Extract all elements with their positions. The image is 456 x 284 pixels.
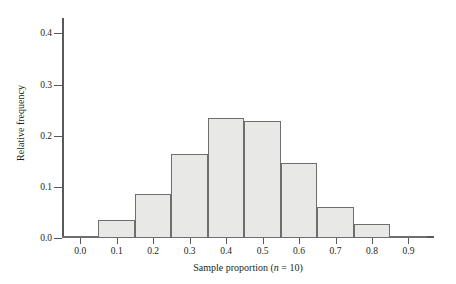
y-axis-title: Relative frequency — [15, 53, 27, 193]
x-axis-title-suffix: = 10) — [279, 262, 303, 273]
histogram-bar — [135, 194, 171, 239]
x-axis-tick-label: 0.8 — [352, 246, 392, 257]
y-axis-tick — [54, 85, 62, 86]
x-axis-tick — [226, 238, 227, 244]
histogram-bar — [390, 236, 426, 238]
x-axis-tick-label: 0.5 — [243, 246, 283, 257]
x-axis-tick — [263, 238, 264, 244]
x-axis-tick-label: 0.6 — [279, 246, 319, 257]
y-axis-tick-label: 0.0 — [18, 233, 52, 243]
histogram-bar — [244, 121, 280, 238]
x-axis-title: Sample proportion (n = 10) — [62, 262, 434, 274]
y-axis-tick — [54, 136, 62, 137]
x-axis-tick-label: 0.0 — [60, 246, 100, 257]
x-axis-tick-label: 0.1 — [97, 246, 137, 257]
plot-area — [62, 18, 434, 238]
histogram-figure: 0.00.10.20.30.4 0.00.10.20.30.40.50.60.7… — [0, 0, 456, 284]
x-axis-tick — [336, 238, 337, 244]
y-axis-tick-label: 0.4 — [18, 28, 52, 38]
histogram-bar — [171, 154, 207, 238]
x-axis-tick — [372, 238, 373, 244]
x-axis-tick-label: 0.9 — [388, 246, 428, 257]
y-axis-tick — [54, 238, 62, 239]
x-axis-tick-label: 0.4 — [206, 246, 246, 257]
x-axis-tick — [408, 238, 409, 244]
x-axis-tick — [190, 238, 191, 244]
x-axis-tick — [153, 238, 154, 244]
y-axis-tick — [54, 187, 62, 188]
histogram-bar — [317, 207, 353, 238]
y-axis-tick — [54, 33, 62, 34]
x-axis-title-prefix: Sample proportion ( — [193, 262, 274, 273]
histogram-bar — [354, 224, 390, 238]
histogram-bar — [62, 236, 98, 238]
histogram-bar — [281, 163, 317, 238]
x-axis-tick-label: 0.2 — [133, 246, 173, 257]
x-axis-tick — [299, 238, 300, 244]
x-axis-tick-label: 0.3 — [170, 246, 210, 257]
x-axis-tick — [117, 238, 118, 244]
histogram-bar — [98, 220, 134, 238]
histogram-bar — [208, 118, 244, 238]
x-axis-tick — [80, 238, 81, 244]
x-axis-tick-label: 0.7 — [316, 246, 356, 257]
